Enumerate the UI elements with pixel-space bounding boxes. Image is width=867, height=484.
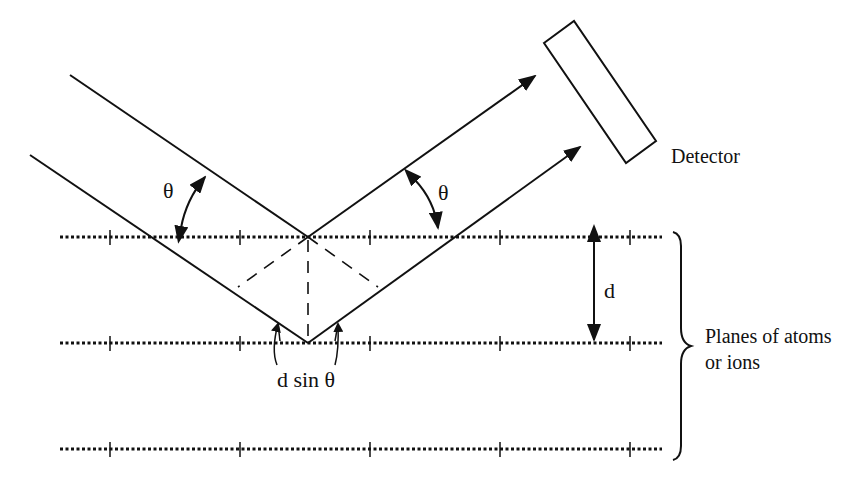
theta-angle-incident: θ — [163, 177, 205, 228]
theta-label-incident: θ — [163, 178, 174, 203]
detector: Detector — [544, 21, 740, 167]
lower-reflected-beam — [308, 147, 580, 343]
planes-label-line2: or ions — [705, 351, 760, 373]
atomic-planes — [60, 230, 662, 457]
plane-3 — [60, 442, 662, 457]
theta-label-reflected: θ — [438, 180, 449, 205]
detector-label: Detector — [671, 145, 740, 167]
path-difference-arrows — [274, 324, 338, 365]
dashed-perpendicular-right — [308, 237, 378, 287]
construction-lines — [238, 237, 378, 340]
bragg-diagram: θ θ d sin θ d Detector Planes of atoms o… — [0, 0, 867, 484]
planes-brace — [673, 232, 691, 460]
theta-angle-reflected: θ — [415, 180, 449, 228]
upper-reflected-beam — [308, 76, 535, 237]
upper-incident-beam — [70, 75, 308, 237]
detector-box — [544, 21, 656, 163]
planes-label-line1: Planes of atoms — [705, 325, 832, 347]
plane-2 — [60, 336, 662, 351]
dashed-perpendicular-left — [238, 237, 308, 287]
spacing-label: d — [604, 278, 615, 303]
path-difference-label: d sin θ — [277, 367, 335, 392]
xray-beams — [30, 75, 580, 343]
spacing-arrow: d — [594, 240, 615, 340]
